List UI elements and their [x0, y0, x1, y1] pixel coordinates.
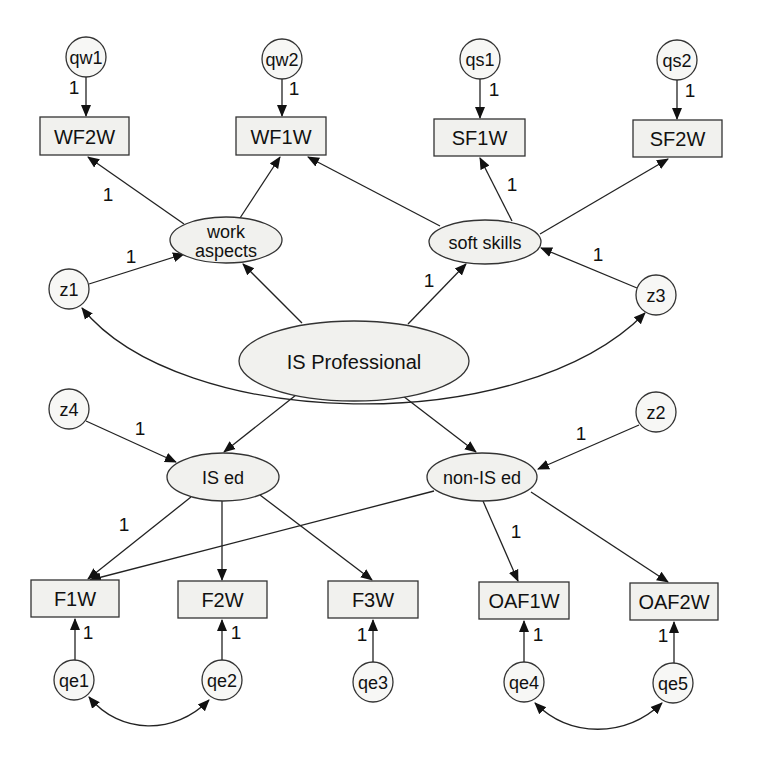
weight-label: 1 [507, 174, 518, 195]
observed-node-SF2W[interactable]: SF2W [633, 120, 722, 157]
node-label: qs1 [465, 50, 494, 70]
path-z3-soft [541, 248, 637, 288]
weight-label: 1 [357, 624, 368, 645]
node-label: qe1 [59, 671, 89, 691]
weight-label: 1 [83, 622, 94, 643]
error-node-qe4[interactable]: qe4 [504, 662, 544, 702]
node-label: qw1 [69, 48, 102, 68]
node-label: z3 [646, 286, 665, 306]
latent-node-is-ed[interactable]: IS ed [167, 453, 279, 501]
weight-label: 1 [658, 625, 669, 646]
weight-label: 1 [231, 622, 242, 643]
disturbance-node-z3[interactable]: z3 [636, 275, 676, 315]
path-isprof-soft [408, 264, 466, 324]
node-label: F1W [54, 588, 96, 610]
node-label-line2: aspects [195, 241, 257, 261]
node-label-line1: work [206, 222, 246, 242]
disturbance-node-z2[interactable]: z2 [636, 392, 676, 432]
error-node-qw1[interactable]: qw1 [66, 37, 106, 77]
node-label: F2W [201, 589, 243, 611]
covariance-qe1-qe2 [89, 697, 209, 726]
weight-label: 1 [126, 246, 137, 267]
weight-label: 1 [685, 80, 696, 101]
path-z1-work [89, 254, 184, 284]
path-z2-nonised [538, 425, 639, 469]
error-node-qs2[interactable]: qs2 [657, 40, 697, 80]
node-label: z2 [646, 403, 665, 423]
path-isprof-nonised [403, 396, 476, 452]
node-label: qs2 [662, 51, 691, 71]
observed-node-OAF1W[interactable]: OAF1W [479, 582, 569, 619]
path-isprof-ised [224, 395, 296, 452]
weight-label: 1 [135, 418, 146, 439]
weight-label: 1 [424, 270, 435, 291]
observed-node-WF2W[interactable]: WF2W [40, 117, 129, 155]
node-label: non-IS ed [443, 468, 521, 488]
observed-node-SF1W[interactable]: SF1W [434, 119, 525, 156]
weight-label: 1 [511, 521, 522, 542]
path-z4-ised [86, 421, 176, 462]
weight-label: 1 [593, 244, 604, 265]
node-label: soft skills [448, 233, 521, 253]
error-node-qe1[interactable]: qe1 [54, 660, 94, 700]
error-node-qe5[interactable]: qe5 [653, 663, 693, 703]
observed-node-F1W[interactable]: F1W [31, 580, 119, 617]
node-label: qe2 [207, 671, 237, 691]
node-label: WF2W [54, 126, 115, 148]
error-node-qs1[interactable]: qs1 [460, 39, 500, 79]
observed-node-F3W[interactable]: F3W [328, 581, 418, 618]
error-node-qe3[interactable]: qe3 [353, 662, 393, 702]
weight-label: 1 [119, 514, 130, 535]
node-label: SF2W [650, 128, 706, 150]
latent-node-non-is-ed[interactable]: non-IS ed [427, 453, 537, 501]
node-label: OAF2W [638, 591, 709, 613]
node-label: IS Professional [287, 351, 422, 373]
disturbance-node-z4[interactable]: z4 [49, 389, 89, 429]
latent-node-is-professional[interactable]: IS Professional [239, 321, 469, 401]
node-label: qe4 [509, 673, 539, 693]
node-label: qe3 [358, 673, 388, 693]
covariance-qe4-qe5 [535, 703, 662, 729]
node-label: qw2 [265, 50, 298, 70]
error-node-qw2[interactable]: qw2 [262, 39, 302, 79]
observed-node-F2W[interactable]: F2W [178, 581, 267, 618]
weight-label: 1 [289, 78, 300, 99]
error-node-qe2[interactable]: qe2 [202, 660, 242, 700]
node-label: qe5 [658, 674, 688, 694]
weight-label: 1 [489, 79, 500, 100]
node-label: WF1W [250, 126, 311, 148]
disturbance-node-z1[interactable]: z1 [49, 269, 89, 309]
node-label: SF1W [452, 127, 508, 149]
path-ised-F3W [260, 495, 372, 580]
node-label: z1 [59, 280, 78, 300]
observed-node-OAF2W[interactable]: OAF2W [630, 583, 718, 620]
path-work-WF1W [240, 157, 280, 218]
weight-label: 1 [69, 77, 80, 98]
sem-diagram: qw1 qw2 qs1 qs2 1 1 1 1 WF2W WF1W SF1W S… [0, 0, 757, 760]
weight-label: 1 [103, 184, 114, 205]
path-soft-WF1W [308, 157, 440, 226]
weight-label: 1 [533, 624, 544, 645]
latent-node-work-aspects[interactable]: work aspects [170, 217, 282, 263]
observed-node-WF1W[interactable]: WF1W [236, 117, 326, 155]
latent-node-soft-skills[interactable]: soft skills [429, 220, 541, 264]
weight-label: 1 [576, 423, 587, 444]
node-label: IS ed [202, 468, 244, 488]
path-soft-SF2W [540, 159, 668, 234]
path-nonised-OAF2W [531, 492, 668, 582]
node-label: OAF1W [488, 590, 559, 612]
node-label: z4 [59, 400, 78, 420]
node-label: F3W [352, 589, 394, 611]
path-isprof-work [243, 264, 302, 323]
